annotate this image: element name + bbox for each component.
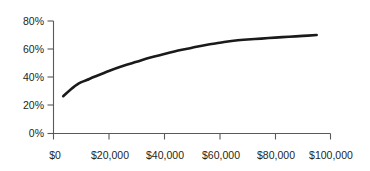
x-axis-tick-marks: [54, 134, 331, 140]
y-axis-tick-marks: [48, 21, 54, 134]
x-tick-label-100000: $100,000: [309, 149, 353, 161]
x-tick-label-0: $0: [49, 149, 61, 161]
x-axis-tick-labels: $0 $20,000 $40,000 $60,000 $80,000 $100,…: [49, 149, 353, 161]
chart-canvas: 80% 60% 40% 20% 0% $0 $20,000 $40,000: [0, 0, 370, 171]
plot-area: [63, 35, 316, 96]
line-chart: 80% 60% 40% 20% 0% $0 $20,000 $40,000: [0, 0, 370, 171]
y-tick-label-60: 60%: [23, 43, 44, 55]
x-tick-label-20000: $20,000: [91, 149, 129, 161]
y-tick-label-0: 0%: [29, 127, 44, 139]
data-series-line: [63, 35, 316, 96]
y-axis-group: 80% 60% 40% 20% 0%: [23, 15, 54, 139]
y-axis-tick-labels: 80% 60% 40% 20% 0%: [23, 15, 44, 139]
x-tick-label-80000: $80,000: [257, 149, 295, 161]
x-tick-label-60000: $60,000: [202, 149, 240, 161]
y-tick-label-80: 80%: [23, 15, 44, 27]
y-tick-label-20: 20%: [23, 99, 44, 111]
x-axis-group: $0 $20,000 $40,000 $60,000 $80,000 $100,…: [49, 134, 353, 162]
x-tick-label-40000: $40,000: [146, 149, 184, 161]
y-tick-label-40: 40%: [23, 71, 44, 83]
